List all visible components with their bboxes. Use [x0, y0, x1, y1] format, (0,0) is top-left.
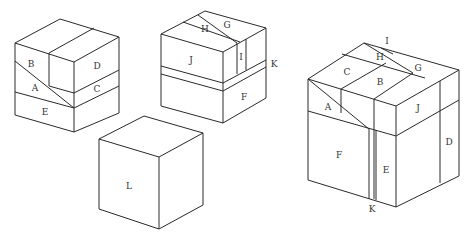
label-l: L: [126, 181, 132, 191]
label-h: H: [376, 52, 384, 62]
label-b: B: [28, 59, 35, 69]
cube-l: L: [99, 116, 203, 229]
label-j: J: [415, 103, 420, 113]
label-g: G: [223, 20, 230, 30]
cube-2: H G J I K F: [161, 11, 278, 123]
label-h: H: [201, 24, 209, 34]
label-i: I: [385, 36, 389, 46]
cube-1: B D A C E: [15, 19, 119, 132]
label-d: D: [93, 61, 100, 71]
label-b: B: [377, 77, 384, 87]
label-c: C: [94, 84, 101, 94]
label-g: G: [414, 63, 421, 73]
label-f: F: [241, 92, 247, 102]
label-c: C: [344, 67, 351, 77]
label-a: A: [31, 83, 39, 93]
cube-assembled: I H G C B J A F E D K: [308, 36, 459, 214]
label-j: J: [188, 55, 193, 65]
cube-diagram: B D A C E H G J I K F L: [0, 0, 472, 240]
label-f: F: [336, 150, 342, 160]
label-k: K: [369, 204, 376, 214]
label-a: A: [324, 102, 332, 112]
label-k: K: [271, 59, 278, 69]
label-i: I: [239, 52, 243, 62]
label-e: E: [383, 165, 390, 175]
label-d: D: [445, 137, 452, 147]
label-e: E: [42, 107, 49, 117]
